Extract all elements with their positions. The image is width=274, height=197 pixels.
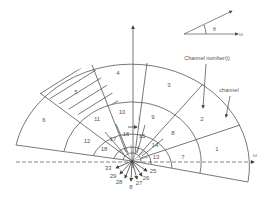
inset-omega-label: ω: [239, 31, 243, 37]
channel-number-caption: Channel number(i): [184, 55, 230, 61]
channel-label-2: 2: [200, 116, 204, 122]
channel-label-3: 3: [167, 82, 171, 88]
arrow-label-28: 28: [116, 179, 123, 185]
theta-inset: θ ω: [184, 11, 243, 37]
channel-label-9: 9: [151, 114, 155, 120]
channel-label-11: 11: [94, 116, 101, 122]
outer-ring-labels: 1 2 3 4 5 6: [42, 70, 219, 152]
channel-label-4: 4: [116, 70, 120, 76]
channel-label-12: 12: [84, 138, 91, 144]
channel-label-17: 17: [110, 136, 117, 142]
channel-label-15: 15: [139, 133, 146, 139]
channel-label-16: 16: [123, 131, 130, 137]
channel-diagram: ω: [0, 0, 274, 197]
arrow-label-25: 25: [150, 168, 157, 174]
channel-label-6: 6: [42, 117, 46, 123]
arrow-label-26: 26: [143, 175, 150, 181]
channel-number-pointer: [203, 64, 206, 108]
channel-label-8: 8: [171, 130, 175, 136]
omega-axis-label: ω: [253, 152, 257, 158]
arrow-label-8: 8: [129, 184, 133, 190]
arrow-label-33: 33: [105, 165, 112, 171]
outer-spokes: [40, 63, 240, 161]
channel-label-10: 10: [119, 109, 126, 115]
ring3-labels: 13 14 15 16 17 18: [101, 131, 160, 160]
channel-label-14: 14: [152, 142, 159, 148]
channel-label-1: 1: [215, 146, 219, 152]
horizontal-axis: ω: [16, 152, 257, 162]
channel-label-13: 13: [153, 154, 160, 160]
channel-label-7: 7: [181, 154, 185, 160]
theta-label: θ: [213, 26, 216, 32]
channel-label-5: 5: [74, 89, 78, 95]
channel-caption: channel: [219, 87, 238, 93]
channel-label-18: 18: [101, 146, 108, 152]
index-mark: i: [139, 116, 140, 121]
